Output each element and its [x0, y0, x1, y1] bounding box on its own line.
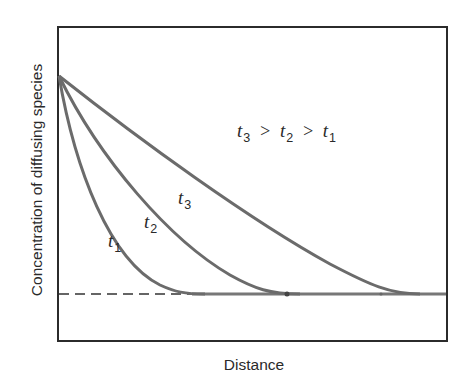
label-t3: t3 — [178, 187, 191, 212]
time-order-annotation: t3 > t2 > t1 — [237, 120, 336, 146]
y-axis-title: Concentration of diffusing species — [28, 64, 45, 297]
x-axis-title: Distance — [224, 356, 284, 373]
curve-t1 — [59, 76, 205, 294]
label-t1: t1 — [108, 230, 121, 255]
diffusion-profile-diagram: t1 t2 t3 t3 > t2 > t1 Distance Concentra… — [0, 0, 469, 390]
baseline-dot — [285, 292, 290, 297]
baseline-dot — [379, 292, 382, 295]
curve-t3 — [59, 76, 420, 294]
curve-t2 — [59, 76, 300, 294]
